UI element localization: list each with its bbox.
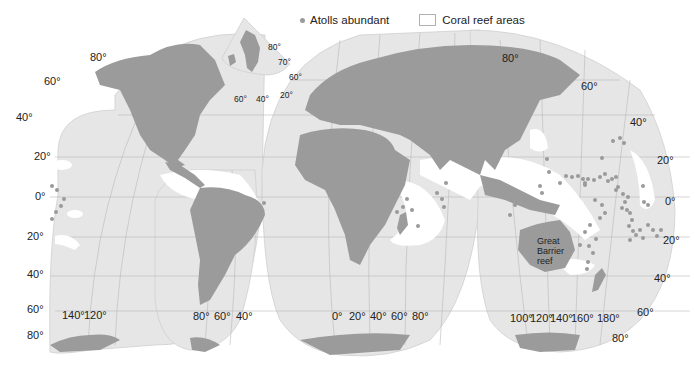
- lon-label-w80: 80°: [193, 311, 210, 322]
- inset-lat-70: 70°: [278, 58, 291, 67]
- lon-label-e140: 140°: [550, 313, 573, 324]
- great-barrier-reef-label: Great Barrier reef: [537, 236, 564, 266]
- antarctica-ap: [515, 333, 580, 353]
- coral-swatch-icon: [419, 14, 436, 26]
- lat-label-n80-right: 80°: [502, 53, 519, 64]
- lat-label-s20-right: 20°: [663, 235, 680, 246]
- lon-label-e20: 20°: [349, 311, 366, 322]
- lat-label-s40-right: 40°: [654, 273, 671, 284]
- legend: Atolls abundant Coral reef areas: [300, 12, 525, 28]
- lon-label-e80: 80°: [412, 311, 429, 322]
- lon-label-w140: 140°: [62, 310, 85, 321]
- lat-label-s40-left: 40°: [27, 269, 44, 280]
- legend-atolls-label: Atolls abundant: [310, 14, 389, 26]
- lat-label-s60-left: 60°: [27, 304, 44, 315]
- lon-label-e180: 180°: [597, 313, 620, 324]
- lat-label-n60-right: 60°: [581, 81, 598, 92]
- inset-lat-80: 80°: [268, 43, 281, 52]
- lon-label-w40: 40°: [236, 311, 253, 322]
- lat-label-s60-right: 60°: [637, 307, 654, 318]
- lon-label-w60: 60°: [214, 311, 231, 322]
- lon-label-e40: 40°: [370, 311, 387, 322]
- inset-lat-60: 60°: [289, 73, 302, 82]
- lat-label-s80-left: 80°: [27, 330, 44, 341]
- lat-label-s80-right: 80°: [612, 333, 629, 344]
- lat-label-n40-left: 40°: [16, 112, 33, 123]
- lat-label-n40-right: 40°: [630, 117, 647, 128]
- lat-label-eq-right: 0°: [665, 196, 676, 207]
- lon-label-e0: 0°: [332, 311, 343, 322]
- inset-lon-60: 60°: [234, 95, 247, 104]
- inset-lon-40: 40°: [256, 95, 269, 104]
- lat-label-n20-left: 20°: [34, 151, 51, 162]
- atoll-dot-icon: [300, 18, 305, 23]
- lat-label-s20-left: 20°: [27, 231, 44, 242]
- lon-label-e60: 60°: [391, 311, 408, 322]
- lat-label-n60-left: 60°: [44, 76, 61, 87]
- lon-label-e160: 160°: [571, 313, 594, 324]
- lon-label-w120: 120°: [84, 310, 107, 321]
- lat-label-n20-right: 20°: [657, 155, 674, 166]
- lat-label-eq-left: 0°: [35, 191, 46, 202]
- inset-lon-20: 20°: [280, 91, 293, 100]
- legend-coral-label: Coral reef areas: [442, 14, 524, 26]
- lat-label-n80-left: 80°: [90, 52, 107, 63]
